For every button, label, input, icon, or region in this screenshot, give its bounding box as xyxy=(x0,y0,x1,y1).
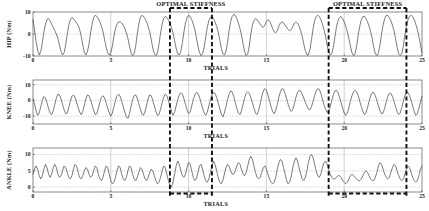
x-tick-label: 20 xyxy=(341,57,347,63)
optimal-stiffness-label: OPTIMAL STIFFNESS xyxy=(333,0,403,7)
y-axis-title: KNEE (Nm) xyxy=(5,85,13,120)
data-trace xyxy=(33,89,422,119)
x-tick-label: 0 xyxy=(32,193,35,199)
x-tick-label: 5 xyxy=(109,125,112,131)
y-tick-label: 5 xyxy=(28,168,31,174)
panel-hip: -100100510152025HIP (Nm)TRIALS xyxy=(5,9,425,71)
x-tick-label: 10 xyxy=(186,57,192,63)
x-tick-label: 0 xyxy=(32,125,35,131)
x-tick-label: 25 xyxy=(419,193,425,199)
panel-ankle: 05100510152025ANKLE (Nm)TRIALS xyxy=(5,148,425,207)
chart-svg: -100100510152025HIP (Nm)TRIALS-100100510… xyxy=(0,0,429,211)
x-tick-label: 20 xyxy=(341,125,347,131)
panel-knee: -100100510152025KNEE (Nm)TRIALS xyxy=(5,80,425,139)
y-axis-title: ANKLE (Nm) xyxy=(5,150,13,189)
y-tick-label: 10 xyxy=(25,151,31,157)
y-tick-label: 0 xyxy=(28,31,31,37)
x-axis-title: TRIALS xyxy=(203,132,228,139)
y-tick-label: 10 xyxy=(25,82,31,88)
x-tick-label: 25 xyxy=(419,57,425,63)
x-tick-label: 10 xyxy=(186,125,192,131)
y-axis-title: HIP (Nm) xyxy=(5,20,13,48)
x-axis-title: TRIALS xyxy=(203,64,228,71)
y-tick-label: 0 xyxy=(28,97,31,103)
y-tick-label: -10 xyxy=(23,113,31,119)
x-tick-label: 0 xyxy=(32,57,35,63)
figure-root: -100100510152025HIP (Nm)TRIALS-100100510… xyxy=(0,0,429,211)
x-tick-label: 25 xyxy=(419,125,425,131)
y-tick-label: 10 xyxy=(25,9,31,15)
x-tick-label: 5 xyxy=(109,57,112,63)
x-tick-label: 15 xyxy=(264,57,270,63)
x-tick-label: 15 xyxy=(264,193,270,199)
y-tick-label: -10 xyxy=(23,53,31,59)
optimal-stiffness-label: OPTIMAL STIFFNESS xyxy=(156,0,226,7)
x-tick-label: 15 xyxy=(264,125,270,131)
x-axis-title: TRIALS xyxy=(203,200,228,207)
optimal-stiffness-bracket: OPTIMAL STIFFNESS xyxy=(329,0,407,196)
data-trace xyxy=(33,14,422,55)
y-tick-label: 0 xyxy=(28,184,31,190)
x-tick-label: 5 xyxy=(109,193,112,199)
